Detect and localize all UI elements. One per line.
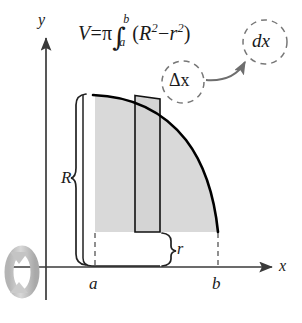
bound-dashed-lines bbox=[95, 233, 218, 265]
delta-x-text: Δx bbox=[169, 70, 190, 90]
inner-radius-brace bbox=[162, 233, 176, 266]
annotation-arrow bbox=[206, 62, 245, 80]
volume-formula: V=π∫ba(R2−r2) bbox=[78, 22, 191, 48]
outer-radius-label: R bbox=[61, 169, 71, 186]
volume-of-revolution-figure: V=π∫ba(R2−r2) dx Δx y x R r a b bbox=[0, 0, 302, 323]
close-paren: ) bbox=[184, 22, 191, 44]
delta-x-label: Δx bbox=[169, 71, 190, 89]
y-axis-label: y bbox=[38, 12, 45, 28]
dx-label: dx bbox=[252, 31, 270, 50]
formula-equals: = bbox=[90, 22, 101, 44]
formula-pi: π bbox=[102, 22, 112, 44]
lower-bound-label: a bbox=[89, 275, 98, 292]
outer-radius-symbol: R bbox=[139, 22, 151, 44]
integral-upper-limit: b bbox=[123, 13, 129, 25]
minus-sign: − bbox=[158, 22, 169, 44]
formula-lhs: V bbox=[78, 22, 90, 44]
x-axis-label: x bbox=[279, 258, 286, 274]
upper-bound-label: b bbox=[212, 275, 221, 292]
integral-lower-limit: a bbox=[119, 36, 125, 48]
representative-strip bbox=[135, 96, 160, 233]
integral-group: ∫ba bbox=[112, 22, 132, 48]
inner-radius-label: r bbox=[177, 241, 183, 257]
rotation-arrow-icon bbox=[9, 250, 35, 294]
